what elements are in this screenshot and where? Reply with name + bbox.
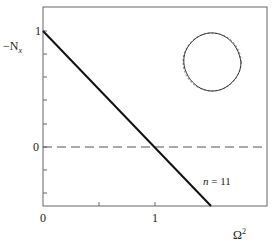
plot-frame <box>43 7 267 206</box>
x-tick-label-0: 0 <box>40 212 46 224</box>
x-axis-label: Ω2 <box>233 226 246 241</box>
x-tick-label-1: 1 <box>152 212 158 224</box>
y-axis-label: −Nx <box>3 40 22 57</box>
x-ticks <box>99 202 155 206</box>
y-tick-label-0: 0 <box>33 141 39 153</box>
y-tick-label-1: 1 <box>35 25 41 37</box>
series-annotation: n = 11 <box>203 175 231 187</box>
series-line-n11 <box>43 31 211 206</box>
inset-mode-shape <box>184 33 241 91</box>
y-ticks <box>43 31 47 193</box>
chart-canvas <box>0 0 275 242</box>
